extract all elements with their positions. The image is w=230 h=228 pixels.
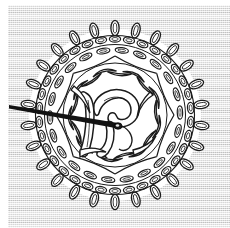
chain-link [109,188,120,194]
braid-link [177,106,183,119]
doily-line-art [0,0,230,228]
picot-loop [111,194,119,209]
picot-loop [111,20,119,35]
chain-link [109,36,120,42]
illustration-figure: Crocheted picot-edged doily with threade… [0,0,230,228]
